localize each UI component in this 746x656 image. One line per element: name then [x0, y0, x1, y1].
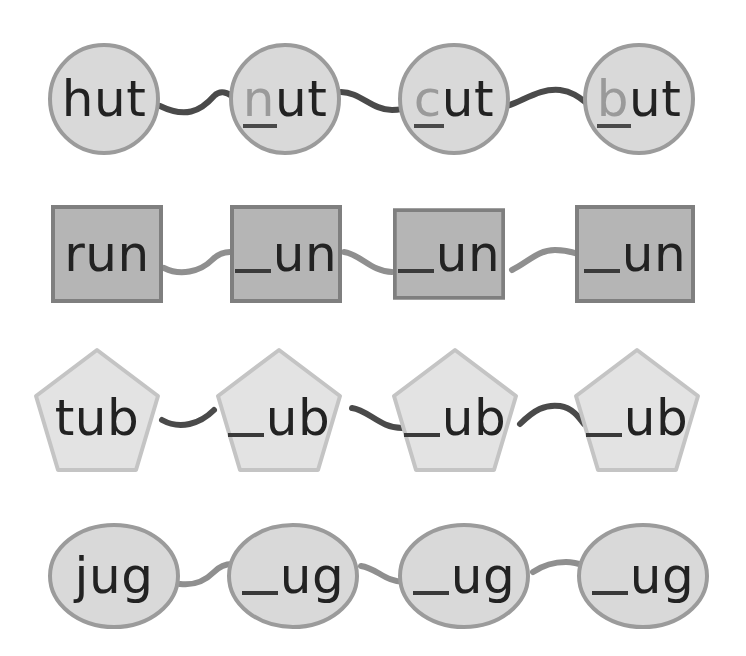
word-pentagon-tub: tub: [32, 346, 162, 476]
word-text: ug: [242, 551, 344, 601]
connector-r2-1: [164, 252, 230, 272]
blank-line[interactable]: [413, 591, 449, 595]
word-pentagon-blank-ub-3: ub: [572, 346, 702, 476]
word-pentagon-blank-ub-1: ub: [214, 346, 344, 476]
blank-line[interactable]: [242, 591, 278, 595]
word-text: ub: [404, 393, 506, 443]
word-text: un: [235, 229, 337, 279]
rime-text: ut: [629, 70, 681, 128]
word-text: un: [584, 229, 686, 279]
blank-line[interactable]: [586, 433, 622, 437]
word-text: jug: [75, 551, 154, 601]
blank-line[interactable]: [398, 269, 434, 273]
rime-text: ub: [266, 389, 330, 447]
word-text: ub: [228, 393, 330, 443]
word-square-blank-un-2: un: [393, 205, 505, 303]
rime-text: ug: [280, 547, 344, 605]
connector-r4-1: [180, 564, 232, 584]
word-text: tub: [55, 393, 140, 443]
word-text: cut: [414, 74, 494, 124]
word-square-run: run: [51, 205, 163, 303]
onset-letter: n: [243, 74, 275, 124]
word-circle-nut: nut: [229, 43, 341, 155]
word-family-worksheet: hut nut cut but run un un un tub ub ub: [0, 0, 746, 656]
connector-r2-3: [512, 250, 578, 270]
blank-line[interactable]: [235, 269, 271, 273]
word-text: ug: [413, 551, 515, 601]
word-ellipse-blank-ug-1: ug: [227, 523, 359, 629]
onset-letter: b: [597, 74, 629, 124]
rime-text: ub: [624, 389, 688, 447]
word-text: but: [597, 74, 682, 124]
word-text: hut: [62, 74, 146, 124]
rime-text: un: [273, 225, 337, 283]
rime-text: un: [436, 225, 500, 283]
rime-text: ut: [275, 70, 327, 128]
connector-r1-1: [160, 92, 232, 112]
word-text: run: [64, 229, 149, 279]
word-square-blank-un-1: un: [230, 205, 342, 303]
word-circle-hut: hut: [48, 43, 160, 155]
word-text: ub: [586, 393, 688, 443]
rime-text: ub: [442, 389, 506, 447]
connector-r1-3: [507, 90, 588, 106]
connector-r3-1: [162, 410, 214, 425]
blank-line[interactable]: [228, 433, 264, 437]
connector-r2-2: [344, 252, 392, 272]
rime-text: ug: [630, 547, 694, 605]
word-text: nut: [243, 74, 328, 124]
onset-letter: c: [414, 74, 442, 124]
word-square-blank-un-3: un: [575, 205, 695, 303]
rime-text: un: [622, 225, 686, 283]
word-text: un: [398, 229, 500, 279]
word-ellipse-blank-ug-3: ug: [577, 523, 709, 629]
blank-line[interactable]: [592, 591, 628, 595]
word-ellipse-blank-ug-2: ug: [398, 523, 530, 629]
word-text: ug: [592, 551, 694, 601]
rime-text: ut: [442, 70, 494, 128]
rime-text: ug: [451, 547, 515, 605]
word-pentagon-blank-ub-2: ub: [390, 346, 520, 476]
blank-line[interactable]: [584, 269, 620, 273]
blank-line[interactable]: [404, 433, 440, 437]
word-circle-but: but: [583, 43, 695, 155]
word-ellipse-jug: jug: [48, 523, 180, 629]
word-circle-cut: cut: [398, 43, 510, 155]
